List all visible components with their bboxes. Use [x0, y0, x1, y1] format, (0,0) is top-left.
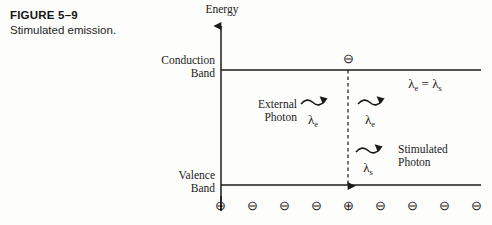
energy-axis-label: Energy — [205, 3, 238, 16]
conduction-band-electron: ⊖ — [343, 51, 354, 66]
valence-band-label-line1: Valence — [179, 169, 215, 181]
conduction-band-label-line1: Conduction — [161, 54, 215, 66]
valence-electron: ⊖ — [279, 198, 290, 213]
valence-electron: ⊖ — [407, 198, 418, 213]
valence-electron: ⊖ — [375, 198, 386, 213]
incident-photon-wavelength: λe — [365, 112, 375, 129]
stimulated-photon-label-line2: Photon — [398, 156, 431, 168]
external-photon-wavelength: λe — [308, 112, 318, 129]
valence-electron: ⊖ — [215, 198, 226, 213]
conduction-band-label-line2: Band — [191, 67, 216, 79]
valence-electron: ⊖ — [247, 198, 258, 213]
stimulated-photon-wavelength: λs — [363, 160, 373, 177]
external-photon-label-line1: External — [258, 98, 297, 110]
wavelength-equation: λe = λs — [408, 76, 442, 93]
stimulated-photon-arrow — [356, 148, 380, 153]
figure-page: FIGURE 5–9 Stimulated emission. Energy C… — [0, 0, 492, 225]
valence-band-label-line2: Band — [191, 182, 216, 194]
valence-carrier-row: ⊖⊖⊖⊖⊕⊖⊖⊖⊖ — [215, 198, 482, 213]
valence-hole: ⊕ — [343, 198, 354, 213]
external-photon-arrow — [301, 100, 325, 105]
valence-electron: ⊖ — [311, 198, 322, 213]
energy-band-diagram: Energy Conduction Band Valence Band ⊖ Ex… — [0, 0, 492, 225]
stimulated-photon-label-line1: Stimulated — [398, 143, 448, 155]
external-photon-label-line2: Photon — [264, 111, 297, 123]
incident-photon-arrow — [358, 100, 382, 105]
valence-electron: ⊖ — [439, 198, 450, 213]
valence-electron: ⊖ — [471, 198, 482, 213]
